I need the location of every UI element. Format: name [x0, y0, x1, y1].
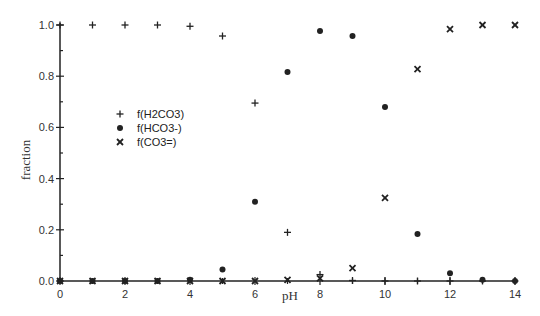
- legend: f(H2CO3) f(HCO3-) f(CO3=): [117, 108, 185, 148]
- axes: 0.00.20.40.60.81.002468101214: [39, 19, 521, 300]
- x-tick-label: 4: [187, 288, 193, 300]
- legend-item-hco3: f(HCO3-): [117, 122, 182, 134]
- legend-label: f(HCO3-): [137, 122, 182, 134]
- x-tick-label: 12: [444, 288, 456, 300]
- y-tick-label: 0.0: [39, 275, 54, 287]
- plus-marker-icon: [447, 278, 454, 285]
- filled-circle-marker-icon: [317, 28, 323, 34]
- y-tick-label: 1.0: [39, 19, 54, 31]
- y-tick-label: 0.4: [39, 173, 54, 185]
- y-axis-title: fraction: [18, 139, 33, 180]
- x-marker-icon: [382, 195, 388, 201]
- filled-circle-marker-icon: [415, 231, 421, 237]
- plus-marker-icon: [122, 22, 129, 29]
- data-points: [57, 22, 519, 285]
- plus-marker-icon: [187, 23, 194, 30]
- chart-canvas: 0.00.20.40.60.81.002468101214 f(H2CO3) f…: [0, 0, 540, 316]
- series-x: [57, 22, 518, 284]
- x-marker-icon: [512, 22, 518, 28]
- x-tick-label: 8: [317, 288, 323, 300]
- x-tick-label: 2: [122, 288, 128, 300]
- plus-marker-icon: [154, 22, 161, 29]
- filled-circle-marker-icon: [447, 270, 453, 276]
- x-marker-icon: [415, 66, 421, 72]
- plus-marker-icon: [57, 22, 64, 29]
- filled-circle-marker-icon: [382, 104, 388, 110]
- plus-marker-icon: [117, 111, 124, 118]
- x-marker-icon: [350, 265, 356, 271]
- x-marker-icon: [480, 22, 486, 28]
- plus-marker-icon: [252, 100, 259, 107]
- plus-marker-icon: [414, 278, 421, 285]
- filled-circle-marker-icon: [480, 277, 486, 283]
- y-tick-label: 0.8: [39, 70, 54, 82]
- plus-marker-icon: [349, 277, 356, 284]
- x-tick-label: 0: [57, 288, 63, 300]
- plus-marker-icon: [382, 278, 389, 285]
- x-tick-label: 6: [252, 288, 258, 300]
- x-tick-label: 10: [379, 288, 391, 300]
- legend-item-h2co3: f(H2CO3): [117, 108, 185, 120]
- filled-circle-marker-icon: [350, 33, 356, 39]
- x-marker-icon: [447, 26, 453, 32]
- filled-circle-marker-icon: [220, 266, 226, 272]
- filled-circle-marker-icon: [252, 199, 258, 205]
- y-tick-label: 0.6: [39, 121, 54, 133]
- x-tick-label: 14: [509, 288, 521, 300]
- plus-marker-icon: [219, 33, 226, 40]
- x-axis-title: pH: [282, 288, 298, 303]
- series-filled-circle: [57, 28, 518, 284]
- legend-item-co3: f(CO3=): [117, 136, 176, 148]
- filled-circle-marker-icon: [512, 278, 518, 284]
- legend-label: f(H2CO3): [137, 108, 184, 120]
- plus-marker-icon: [89, 22, 96, 29]
- plus-marker-icon: [284, 229, 291, 236]
- y-tick-label: 0.2: [39, 224, 54, 236]
- filled-circle-marker-icon: [285, 69, 291, 75]
- series-plus: [57, 22, 519, 285]
- filled-circle-marker-icon: [117, 125, 123, 131]
- legend-label: f(CO3=): [137, 136, 176, 148]
- x-marker-icon: [117, 139, 123, 145]
